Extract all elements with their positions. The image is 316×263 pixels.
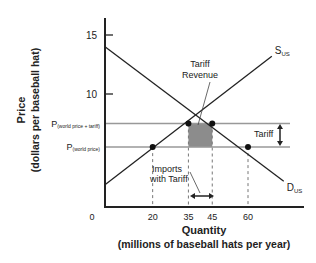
y-tick-label-10: 10 <box>86 89 98 100</box>
data-point-60 <box>245 144 251 150</box>
tariff-revenue-label-1: Tariff <box>190 59 210 69</box>
x-tick-label-60: 60 <box>243 212 253 222</box>
s-curve-label: SUS <box>275 45 290 57</box>
imports-double-arrow <box>190 193 214 199</box>
y-tick-label-15: 15 <box>86 30 98 41</box>
tariff-double-arrow <box>277 124 283 146</box>
data-point-20 <box>150 144 156 150</box>
tariff-label: Tariff <box>254 129 274 139</box>
x-tick-label-45: 45 <box>207 212 217 222</box>
d-curve-label: DUS <box>287 182 303 194</box>
x-tick-label-20: 20 <box>148 212 158 222</box>
tariff-revenue-pointer <box>198 82 210 125</box>
x-tick-label-35: 35 <box>183 212 193 222</box>
x-axis-label: Quantity <box>182 224 227 236</box>
data-point-45 <box>209 121 215 127</box>
y-axis-sublabel: (dollars per baseball hat) <box>29 48 41 172</box>
x-axis-sublabel: (millions of baseball hats per year) <box>118 238 291 250</box>
tariff-chart: P(world price + tariff)P(world price) SU… <box>0 0 316 263</box>
imports-label-1: Imports <box>152 164 183 174</box>
data-point-35 <box>185 121 191 127</box>
y-axis-label: Price <box>15 97 27 124</box>
imports-label-2: with Tariff <box>149 174 188 184</box>
x-tick-label-0: 0 <box>89 212 94 222</box>
price-line-label-1: P(world price) <box>66 142 100 152</box>
tariff-revenue-area <box>188 124 212 148</box>
imports-pointer <box>190 172 200 193</box>
price-line-label-0: P(world price + tariff) <box>51 119 100 129</box>
tariff-revenue-label-2: Revenue <box>182 70 218 80</box>
